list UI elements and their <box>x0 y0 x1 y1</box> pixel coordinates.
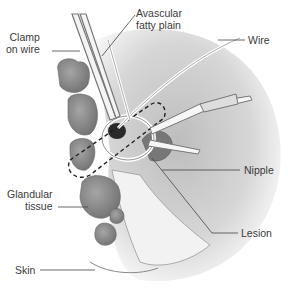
label-glandular: Glandular tissue <box>7 188 53 212</box>
label-glandular-line2: tissue <box>7 200 53 212</box>
label-clamp-line2: on wire <box>6 43 40 55</box>
label-clamp: Clamp on wire <box>6 31 40 55</box>
diagram-canvas: Clamp on wire Avascular fatty plain Wire… <box>0 0 294 294</box>
lesion <box>108 123 126 139</box>
label-skin: Skin <box>15 264 35 276</box>
label-avascular-line1: Avascular <box>136 7 182 19</box>
label-avascular-line2: fatty plain <box>136 19 182 31</box>
label-clamp-line1: Clamp <box>6 31 40 43</box>
label-wire: Wire <box>248 34 270 46</box>
label-glandular-line1: Glandular <box>7 188 53 200</box>
label-nipple: Nipple <box>244 164 274 176</box>
label-lesion: Lesion <box>241 227 272 239</box>
label-avascular: Avascular fatty plain <box>136 7 182 31</box>
